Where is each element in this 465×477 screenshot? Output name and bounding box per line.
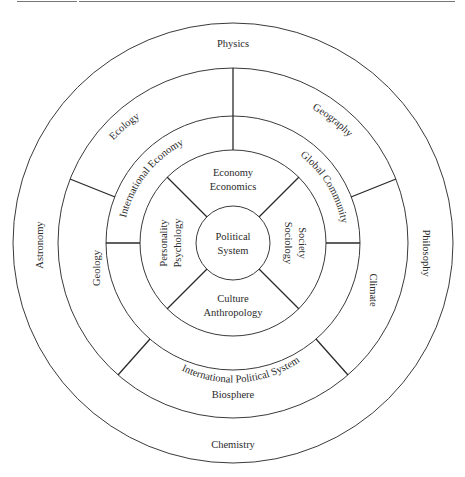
center-circle (196, 206, 270, 280)
divider-social-upper-left (167, 177, 207, 217)
geography-label: Geography (311, 101, 356, 139)
international-ring-circle (106, 116, 360, 370)
center-label-line1: Political (216, 231, 251, 242)
divider-natural-upper-right (351, 179, 396, 197)
chemistry-label: Chemistry (211, 439, 255, 450)
biosphere-label: Biosphere (212, 389, 255, 400)
divider-social-lower-left (167, 269, 207, 309)
sociology-label: Sociology (283, 222, 294, 265)
personality-label: Personality (158, 219, 169, 267)
economics-label: Economics (210, 181, 257, 192)
physics-label: Physics (217, 38, 249, 49)
culture-label: Culture (217, 293, 249, 304)
anthropology-label: Anthropology (204, 307, 264, 318)
divider-social-lower-right (259, 269, 299, 309)
climate-label: Climate (368, 273, 379, 307)
psychology-label: Psychology (172, 218, 183, 268)
ecology-label: Ecology (107, 110, 142, 142)
divider-natural-lower-right (316, 339, 348, 375)
concentric-rings-diagram: Political System Economy Economics Cultu… (0, 0, 465, 477)
geology-label: Geology (91, 249, 102, 286)
international-economy-label: International Economy (117, 136, 185, 218)
philosophy-label: Philosophy (421, 229, 432, 277)
economy-label: Economy (213, 167, 254, 178)
divider-social-upper-right (259, 177, 299, 217)
divider-natural-lower-left (118, 339, 150, 375)
divider-natural-upper-left (70, 179, 115, 197)
astronomy-label: Astronomy (34, 221, 45, 269)
international-political-system-label: International Political System (180, 354, 301, 384)
society-label: Society (297, 227, 308, 259)
center-label-line2: System (218, 245, 249, 256)
